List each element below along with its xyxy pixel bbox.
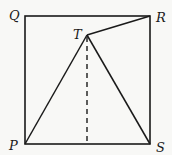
segment-ts — [87, 35, 150, 144]
label-q: Q — [9, 8, 20, 23]
segment-pt — [25, 35, 87, 144]
label-t: T — [73, 27, 83, 42]
label-p: P — [8, 138, 18, 153]
geometry-diagram: Q R T P S — [0, 0, 172, 155]
segment-tr — [87, 16, 150, 35]
label-r: R — [155, 10, 166, 25]
label-s: S — [156, 140, 165, 155]
